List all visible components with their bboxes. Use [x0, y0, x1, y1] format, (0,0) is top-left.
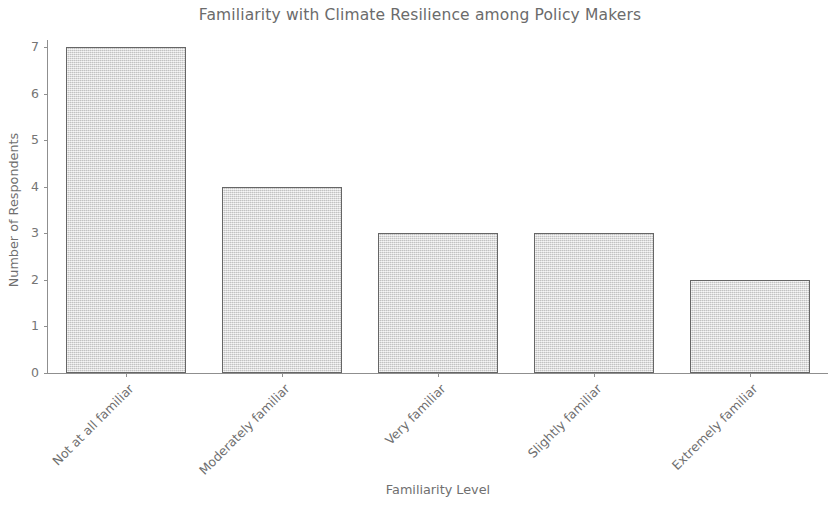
- x-tick-label: Moderately familiar: [196, 381, 293, 478]
- chart-title: Familiarity with Climate Resilience amon…: [0, 6, 840, 24]
- bar[interactable]: [378, 233, 498, 373]
- y-tick-label: 0: [31, 364, 39, 382]
- plot-area: [48, 47, 828, 373]
- bar-chart-figure: Familiarity with Climate Resilience amon…: [0, 0, 840, 515]
- bar[interactable]: [222, 187, 342, 373]
- x-tick-mark: [126, 373, 127, 377]
- x-tick-mark: [282, 373, 283, 377]
- y-tick-label: 3: [31, 224, 39, 242]
- y-tick-label: 7: [31, 38, 39, 56]
- x-tick-mark: [438, 373, 439, 377]
- x-tick-mark: [750, 373, 751, 377]
- y-axis-label: Number of Respondents: [4, 47, 24, 373]
- y-tick-label: 4: [31, 178, 39, 196]
- x-tick-label: Slightly familiar: [525, 381, 605, 461]
- bar[interactable]: [66, 47, 186, 373]
- y-tick-label: 2: [31, 271, 39, 289]
- bar[interactable]: [534, 233, 654, 373]
- y-tick: 0: [0, 373, 48, 374]
- x-tick-label: Extremely familiar: [669, 381, 761, 473]
- y-tick-label: 6: [31, 85, 39, 103]
- x-axis-label: Familiarity Level: [48, 482, 828, 497]
- y-tick-label: 5: [31, 131, 39, 149]
- x-tick-label: Very familiar: [382, 381, 449, 448]
- y-tick-mark: [44, 373, 48, 374]
- y-tick-label: 1: [31, 317, 39, 335]
- x-tick-label: Not at all familiar: [49, 381, 136, 468]
- x-tick-mark: [594, 373, 595, 377]
- bar[interactable]: [690, 280, 810, 373]
